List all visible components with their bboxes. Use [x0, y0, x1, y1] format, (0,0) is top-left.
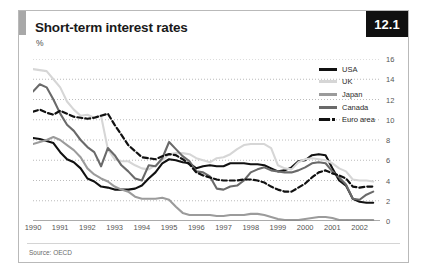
figure-number-badge: 12.1: [366, 11, 408, 37]
legend-label: USA: [342, 65, 357, 74]
legend-item-canada: Canada: [319, 101, 405, 114]
y-tick-label: 4: [386, 176, 390, 185]
x-tick-label: 1991: [52, 223, 69, 232]
chart-figure: Short-term interest rates % 12.1 1990199…: [18, 10, 409, 263]
legend-swatch-icon: [319, 106, 337, 109]
legend-item-uk: UK: [319, 76, 405, 89]
legend-label: Euro area: [342, 115, 375, 124]
x-tick-label: 2002: [351, 223, 368, 232]
x-tick-label: 1992: [79, 223, 96, 232]
legend-swatch-icon: [319, 93, 337, 96]
y-tick-label: 0: [386, 217, 390, 226]
legend-label: Japan: [342, 90, 362, 99]
legend-swatch-icon: [319, 68, 337, 71]
x-tick-label: 1998: [242, 223, 259, 232]
legend-item-euro-area: Euro area: [319, 113, 405, 126]
x-tick-label: 2000: [297, 223, 314, 232]
x-axis-tick-labels: 1990199119921993199419951996199719981999…: [33, 223, 380, 237]
y-tick-label: 8: [386, 136, 390, 145]
series-line-japan: [33, 137, 373, 220]
legend-item-japan: Japan: [319, 88, 405, 101]
legend-label: Canada: [342, 103, 368, 112]
legend-item-usa: USA: [319, 63, 405, 76]
legend-swatch-icon: [319, 118, 337, 121]
footer-divider: [27, 243, 400, 244]
chart-legend: USAUKJapanCanadaEuro area: [319, 63, 405, 126]
x-tick-label: 1999: [270, 223, 287, 232]
legend-swatch-icon: [319, 80, 337, 83]
x-tick-label: 1995: [161, 223, 178, 232]
y-tick-label: 6: [386, 156, 390, 165]
x-tick-label: 1997: [215, 223, 232, 232]
x-tick-label: 1996: [188, 223, 205, 232]
page-title: Short-term interest rates: [35, 20, 188, 35]
chart-subtitle: %: [36, 38, 44, 48]
x-tick-label: 1993: [106, 223, 123, 232]
x-tick-label: 1990: [25, 223, 42, 232]
y-tick-label: 2: [386, 196, 390, 205]
x-tick-label: 1994: [134, 223, 151, 232]
x-tick-label: 2001: [324, 223, 341, 232]
accent-bar: [19, 11, 26, 35]
legend-label: UK: [342, 77, 352, 86]
source-note: Source: OECD: [29, 249, 72, 256]
